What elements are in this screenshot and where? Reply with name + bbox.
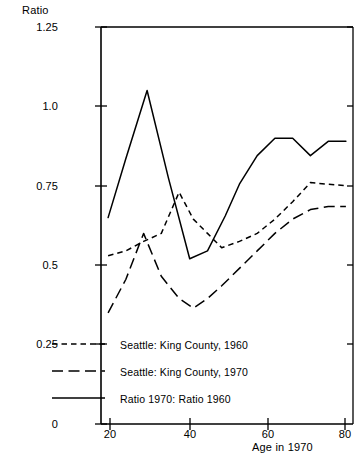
plot-area (0, 0, 356, 461)
series-line-king-county-1970 (108, 206, 346, 312)
y-axis-ticks-right (347, 27, 353, 344)
series-line-king-county-1960 (108, 183, 346, 256)
chart-figure: Ratio Age in 1970 1.25 1.0 0.75 0.5 0.25… (0, 0, 356, 461)
axis-lines (101, 27, 353, 424)
legend-swatches (52, 344, 105, 398)
